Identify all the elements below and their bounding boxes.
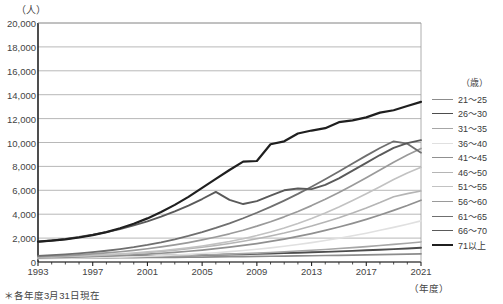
legend-item-label: 66～70 [458, 224, 487, 237]
legend-item[interactable]: 36～40 [432, 136, 503, 151]
y-axis-tick-label: 16,000 [7, 65, 36, 76]
legend-swatch-icon [432, 143, 453, 144]
y-axis-tick-label: 18,000 [7, 41, 36, 52]
series-line-61～65 [38, 141, 421, 255]
x-axis-tick-label: 2021 [410, 266, 431, 277]
x-axis-tick-label: 2005 [192, 266, 213, 277]
legend-swatch-icon [432, 99, 453, 100]
y-axis-tick-labels: 20,00018,00016,00014,00012,00010,0008,00… [0, 0, 36, 304]
legend-item[interactable]: 71以上 [432, 238, 503, 253]
legend-swatch-icon [432, 201, 453, 202]
legend-header: （歳） [446, 76, 503, 89]
y-axis-tick-label: 4,000 [12, 209, 36, 220]
legend-item-label: 71以上 [458, 239, 486, 252]
legend-item-label: 36～40 [458, 137, 487, 150]
series-group [38, 102, 421, 259]
legend-item-label: 41～45 [458, 151, 487, 164]
legend-swatch-icon [432, 230, 453, 231]
x-axis-tick-label: 2001 [137, 266, 158, 277]
x-axis-tick-label: 2013 [301, 266, 322, 277]
legend-item[interactable]: 56～60 [432, 194, 503, 209]
x-axis-tick-label: 1993 [27, 266, 48, 277]
legend-item[interactable]: 26～30 [432, 107, 503, 122]
x-axis-tick-label: 2009 [246, 266, 267, 277]
y-axis-tick-label: 12,000 [7, 113, 36, 124]
legend-swatch-icon [432, 244, 453, 246]
y-axis-tick-label: 6,000 [12, 185, 36, 196]
line-chart: （人） 20,00018,00016,00014,00012,00010,000… [0, 0, 503, 304]
series-line-66～70 [38, 140, 421, 242]
legend-item-label: 26～30 [458, 107, 487, 120]
x-axis-tick-label: 2017 [356, 266, 377, 277]
legend-swatch-icon [432, 216, 453, 217]
y-axis-tick-label: 10,000 [7, 137, 36, 148]
legend-swatch-icon [432, 113, 453, 114]
legend-item[interactable]: 21～25 [432, 92, 503, 107]
y-axis-tick-label: 14,000 [7, 89, 36, 100]
legend-item[interactable]: 46～50 [432, 165, 503, 180]
x-axis-unit-label: （年度） [409, 281, 449, 295]
y-axis-tick-label: 20,000 [7, 18, 36, 29]
legend-item-label: 56～60 [458, 195, 487, 208]
legend-item[interactable]: 51～55 [432, 180, 503, 195]
x-axis-tick-label: 1997 [82, 266, 103, 277]
plot-area [0, 0, 503, 304]
legend-swatch-icon [432, 157, 453, 158]
legend-item-label: 31～35 [458, 122, 487, 135]
legend-item[interactable]: 61～65 [432, 209, 503, 224]
y-axis-tick-label: 2,000 [12, 233, 36, 244]
footnote: ＊各年度3月31日現在 [4, 288, 100, 302]
legend-swatch-icon [432, 172, 453, 173]
legend: （歳） 21～2526～3031～3536～4041～4546～5051～555… [432, 76, 503, 253]
legend-item-label: 51～55 [458, 180, 487, 193]
legend-item[interactable]: 31～35 [432, 121, 503, 136]
legend-item[interactable]: 66～70 [432, 223, 503, 238]
legend-item-label: 21～25 [458, 93, 487, 106]
x-axis-tick-labels: 19931997200120052009201320172021 [0, 266, 503, 282]
legend-swatch-icon [432, 186, 453, 187]
legend-swatch-icon [432, 128, 453, 129]
gridlines [38, 23, 421, 262]
legend-item[interactable]: 41～45 [432, 150, 503, 165]
y-axis-tick-label: 8,000 [12, 161, 36, 172]
legend-item-label: 61～65 [458, 210, 487, 223]
legend-item-label: 46～50 [458, 166, 487, 179]
